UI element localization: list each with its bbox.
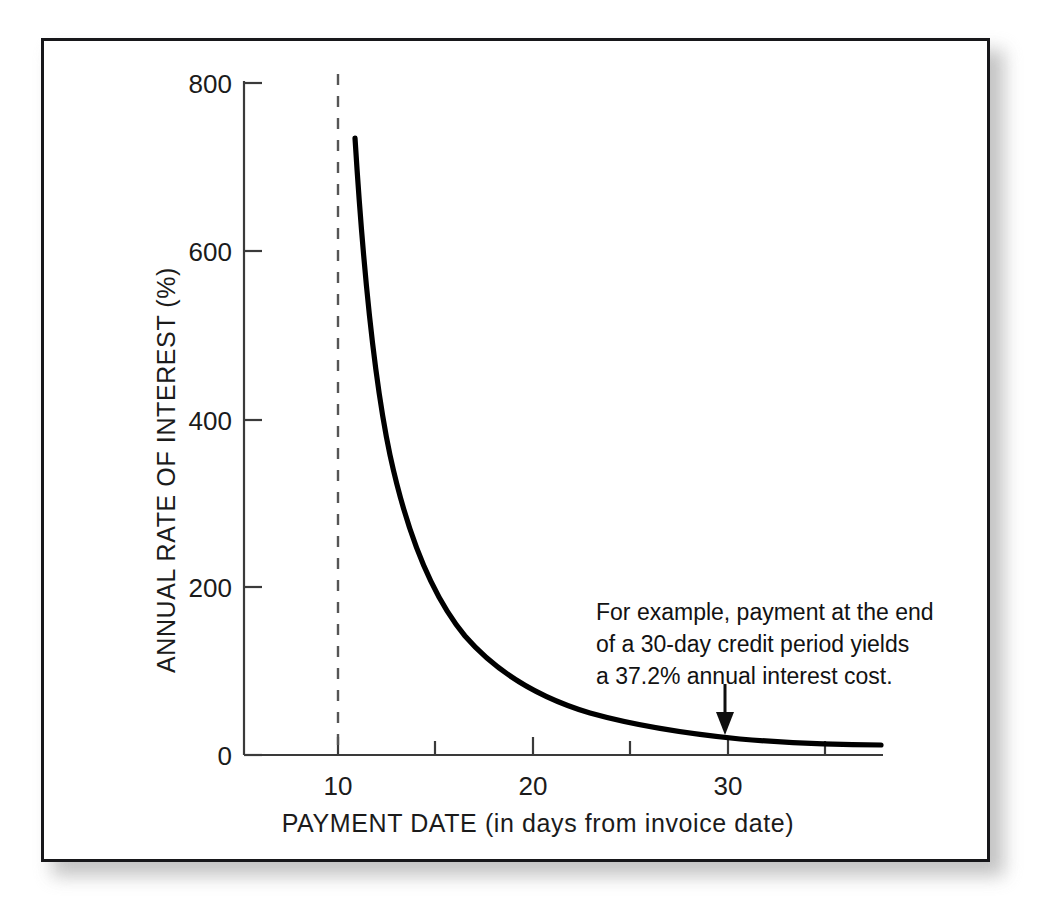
annotation-line-1: For example, payment at the end: [596, 599, 934, 625]
y-tick-label-0: 0: [218, 741, 232, 771]
x-axis-title: PAYMENT DATE (in days from invoice date): [282, 809, 795, 837]
x-tick-label-10: 10: [324, 771, 353, 801]
y-tick-label-600: 600: [189, 237, 232, 267]
y-tick-label-800: 800: [189, 69, 232, 99]
y-axis-title: ANNUAL RATE OF INTEREST (%): [152, 267, 180, 673]
annotation-arrow: [716, 684, 734, 735]
annotation-line-3: a 37.2% annual interest cost.: [596, 663, 893, 689]
y-tick-label-400: 400: [189, 406, 232, 436]
figure-root: 0 200 400 600 800 ANNUAL RATE OF INTERES…: [0, 0, 1037, 908]
y-axis-ticks: [244, 83, 262, 755]
y-tick-label-200: 200: [189, 573, 232, 603]
annotation-line-2: of a 30-day credit period yields: [596, 631, 909, 657]
x-tick-label-20: 20: [519, 771, 548, 801]
x-tick-label-30: 30: [714, 771, 743, 801]
interest-rate-chart: 0 200 400 600 800 ANNUAL RATE OF INTERES…: [0, 0, 1037, 908]
